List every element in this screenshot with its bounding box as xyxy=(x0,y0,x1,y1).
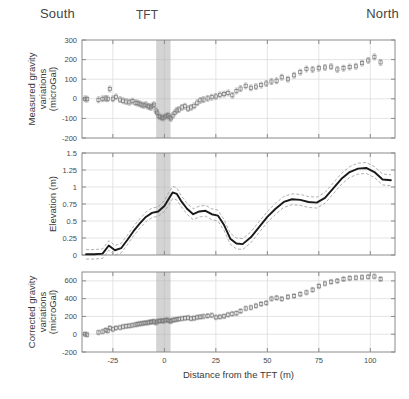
y-tick-label: 1.25 xyxy=(62,166,77,175)
plot-canvas: -200-1000100200300Measured gravityvariat… xyxy=(0,0,409,399)
tft-band xyxy=(156,153,170,255)
y-tick-label: 0.25 xyxy=(62,234,77,243)
y-axis-title: variations xyxy=(37,291,48,332)
tft-band xyxy=(156,40,170,138)
x-tick-label: -25 xyxy=(107,356,118,365)
y-tick-label: 300 xyxy=(64,36,77,45)
gravity-survey-figure: South North TFT -200-1000100200300Measur… xyxy=(0,0,409,399)
y-axis-title: (microGal) xyxy=(47,67,58,111)
y-tick-label: 1.5 xyxy=(67,149,77,158)
x-tick-label: 25 xyxy=(212,356,220,365)
y-tick-label: 0 xyxy=(73,330,77,339)
tft-band xyxy=(156,272,170,352)
y-axis-title: Measured gravity xyxy=(26,52,37,125)
x-axis-title: Distance from the TFT (m) xyxy=(183,369,294,380)
x-tick-label: 50 xyxy=(263,356,271,365)
y-axis-title: Elevation (m) xyxy=(47,176,58,232)
y-axis-title: (microGal) xyxy=(47,290,58,334)
y-tick-label: 0.75 xyxy=(62,200,77,209)
panel-frame xyxy=(82,40,395,138)
y-tick-label: 0 xyxy=(73,94,77,103)
y-tick-label: 400 xyxy=(64,294,77,303)
y-tick-label: 200 xyxy=(64,55,77,64)
y-tick-label: 0 xyxy=(73,251,77,260)
panel-bottom: -2000200400600-250255075100Corrected gra… xyxy=(26,272,395,380)
x-tick-label: 75 xyxy=(315,356,323,365)
panel-frame xyxy=(82,272,395,352)
x-tick-label: 0 xyxy=(162,356,166,365)
panel-top: -200-1000100200300Measured gravityvariat… xyxy=(26,36,395,143)
data-points xyxy=(83,274,382,337)
y-tick-label: 0.5 xyxy=(67,217,77,226)
y-tick-label: 100 xyxy=(64,75,77,84)
y-tick-label: -200 xyxy=(62,348,77,357)
y-axis-title: Corrected gravity xyxy=(26,276,37,349)
y-tick-label: -200 xyxy=(62,134,77,143)
y-tick-label: 600 xyxy=(64,276,77,285)
elevation-confidence-bound xyxy=(86,173,391,259)
y-tick-label: 1 xyxy=(73,183,77,192)
y-tick-label: 200 xyxy=(64,312,77,321)
y-axis-title: variations xyxy=(37,68,48,109)
y-tick-label: -100 xyxy=(62,114,77,123)
data-points xyxy=(83,54,382,121)
x-tick-label: 100 xyxy=(364,356,377,365)
panel-middle: 00.250.50.7511.251.5Elevation (m) xyxy=(47,149,395,260)
